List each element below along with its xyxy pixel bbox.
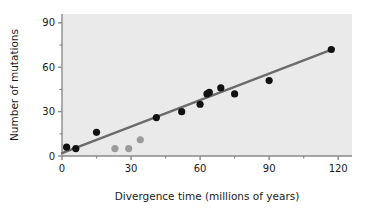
y-axis-title: Number of mutations — [8, 29, 20, 141]
data-point — [196, 101, 203, 108]
data-point — [72, 145, 79, 152]
x-tick-label-0: 0 — [59, 163, 65, 174]
y-tick-label-60: 60 — [42, 62, 55, 73]
data-point — [93, 129, 100, 136]
data-point — [137, 136, 144, 143]
x-tick-label-90: 90 — [263, 163, 276, 174]
x-axis-tick-labels: 0306090120 — [59, 163, 348, 174]
plot-area-background — [62, 14, 352, 156]
data-point — [217, 84, 224, 91]
data-point — [63, 144, 70, 151]
data-point — [231, 90, 238, 97]
y-tick-label-90: 90 — [42, 17, 55, 28]
y-tick-label-0: 0 — [49, 151, 55, 162]
scatter-plot-figure: 0306090 0306090120 Divergence time (mill… — [0, 0, 368, 210]
x-tick-label-60: 60 — [194, 163, 207, 174]
x-axis-title: Divergence time (millions of years) — [115, 190, 300, 202]
data-point — [111, 145, 118, 152]
data-point — [125, 145, 132, 152]
data-point — [178, 108, 185, 115]
data-point — [266, 77, 273, 84]
chart-canvas: 0306090 0306090120 Divergence time (mill… — [0, 0, 368, 210]
data-point — [206, 89, 213, 96]
x-tick-label-120: 120 — [329, 163, 348, 174]
y-axis-tick-labels: 0306090 — [42, 17, 55, 161]
data-point — [328, 46, 335, 53]
y-tick-label-30: 30 — [42, 106, 55, 117]
data-point — [153, 114, 160, 121]
x-tick-label-30: 30 — [125, 163, 138, 174]
